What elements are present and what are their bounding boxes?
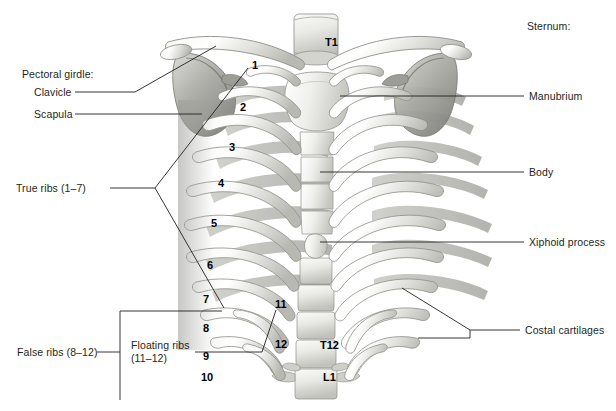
rib-number-9: 9 xyxy=(203,350,209,362)
rib-number-4: 4 xyxy=(218,177,224,189)
label-pectoral-girdle-header: Pectoral girdle: xyxy=(22,68,94,81)
label-scapula: Scapula xyxy=(34,108,73,121)
anatomical-figure: Pectoral girdle: Clavicle Scapula True r… xyxy=(0,0,616,411)
rib-number-2: 2 xyxy=(240,101,246,113)
label-body: Body xyxy=(529,166,553,179)
label-clavicle: Clavicle xyxy=(34,86,72,99)
vertebra-label-t12: T12 xyxy=(320,339,339,351)
label-manubrium: Manubrium xyxy=(529,90,582,103)
label-true-ribs: True ribs (1–7) xyxy=(16,182,86,195)
vertebra-label-t1: T1 xyxy=(325,36,338,48)
rib-number-7: 7 xyxy=(203,293,209,305)
rib-number-8: 8 xyxy=(203,322,209,334)
rib-number-11: 11 xyxy=(275,298,287,310)
label-xiphoid-process: Xiphoid process xyxy=(529,236,605,249)
leader-line-costal-b xyxy=(418,330,470,338)
vertebra-label-l1: L1 xyxy=(323,371,336,383)
rib-number-10: 10 xyxy=(201,371,213,383)
rib-number-6: 6 xyxy=(207,259,213,271)
label-costal-cartilages: Costal cartilages xyxy=(525,324,604,337)
label-sternum-header: Sternum: xyxy=(527,20,570,33)
rib-number-12: 12 xyxy=(275,338,287,350)
rib-number-3: 3 xyxy=(229,141,235,153)
rib-number-5: 5 xyxy=(211,217,217,229)
rib-number-1: 1 xyxy=(252,59,258,71)
label-floating-ribs: Floating ribs (11–12) xyxy=(131,339,209,365)
label-false-ribs: False ribs (8–12) xyxy=(17,346,97,359)
